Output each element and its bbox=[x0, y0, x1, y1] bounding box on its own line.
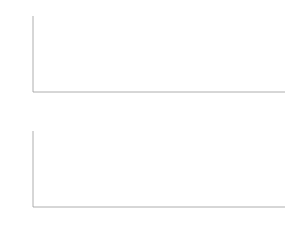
top-plot-area bbox=[0, 0, 293, 115]
chart-panel-top bbox=[0, 0, 293, 115]
bottom-plot-area bbox=[0, 115, 293, 237]
chart-panel-bottom bbox=[0, 115, 293, 237]
figure-container bbox=[0, 0, 293, 237]
